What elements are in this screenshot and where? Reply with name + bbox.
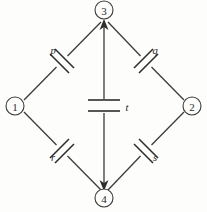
wire-s-upper (152, 112, 185, 145)
wire-q-lower (152, 67, 185, 100)
wire-r-upper (24, 112, 57, 145)
capacitor-s-label: s (153, 152, 157, 163)
circuit-svg: p q r s (0, 0, 207, 212)
node-2[interactable]: 2 (183, 97, 201, 115)
node-4-label: 4 (101, 193, 107, 205)
branch-p-group: p (24, 22, 101, 100)
node-2-label: 2 (189, 101, 195, 113)
capacitor-p-label: p (49, 45, 55, 56)
branch-r-group: r (24, 112, 101, 190)
branch-q-group: q (108, 22, 184, 100)
capacitor-t-label: t (126, 102, 130, 113)
wire-p-upper (68, 22, 102, 56)
wire-p-lower (24, 67, 57, 100)
circuit-diagram-canvas: p q r s (0, 0, 207, 212)
branch-s-group: s (108, 112, 184, 190)
node-3[interactable]: 3 (95, 1, 113, 19)
wire-r-lower (68, 156, 102, 190)
capacitor-q-label: q (152, 45, 157, 56)
node-1-label: 1 (12, 101, 18, 113)
branch-t-group: t (88, 21, 130, 190)
node-4[interactable]: 4 (95, 189, 113, 207)
node-1[interactable]: 1 (6, 97, 24, 115)
wire-q-upper (108, 22, 141, 56)
node-3-label: 3 (101, 5, 107, 17)
wire-s-lower (108, 156, 141, 190)
